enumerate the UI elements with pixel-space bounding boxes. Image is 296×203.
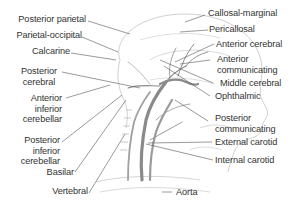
label-posterior-cerebral: Posterior cerebral bbox=[16, 66, 62, 87]
label-line: Anterior bbox=[23, 93, 62, 104]
arteries bbox=[128, 44, 208, 180]
label-basilar: Basilar bbox=[47, 167, 74, 178]
label-parietal-occipital: Parietal-occipital bbox=[16, 30, 82, 41]
label-line: cerebellar bbox=[21, 156, 60, 167]
label-line: Posterior bbox=[21, 135, 60, 146]
label-vertebral: Vertebral bbox=[52, 186, 88, 197]
leader-lines bbox=[62, 15, 214, 193]
label-anterior-inferior-cerebellar: Anterior inferior cerebellar bbox=[23, 93, 62, 125]
label-posterior-parietal: Posterior parietal bbox=[18, 14, 86, 25]
label-anterior-communicating: Anterior communicating bbox=[217, 54, 278, 75]
label-pericallosal: Pericallosal bbox=[209, 24, 255, 35]
label-middle-cerebral: Middle cerebral bbox=[220, 78, 281, 89]
label-ophthalmic: Ophthalmic bbox=[215, 91, 260, 102]
label-anterior-cerebral: Anterior cerebral bbox=[216, 39, 282, 50]
label-line: inferior bbox=[21, 146, 60, 157]
label-line: cerebral bbox=[16, 77, 62, 88]
label-calcarine: Calcarine bbox=[32, 46, 70, 57]
label-posterior-inferior-cerebellar: Posterior inferior cerebellar bbox=[21, 135, 60, 167]
label-external-carotid: External carotid bbox=[215, 137, 277, 148]
label-callosal-marginal: Callosal-marginal bbox=[208, 8, 277, 19]
label-line: communicating bbox=[217, 65, 278, 76]
label-line: communicating bbox=[215, 124, 276, 135]
label-line: Posterior bbox=[215, 113, 276, 124]
label-line: inferior bbox=[23, 104, 62, 115]
label-line: cerebellar bbox=[23, 114, 62, 125]
label-aorta: Aorta bbox=[176, 187, 197, 198]
label-posterior-communicating: Posterior communicating bbox=[215, 113, 276, 134]
label-internal-carotid: Internal carotid bbox=[215, 155, 274, 166]
artery-diagram: Posterior parietal Parietal-occipital Ca… bbox=[0, 0, 296, 203]
label-line: Anterior bbox=[217, 54, 278, 65]
label-line: Posterior bbox=[16, 66, 62, 77]
